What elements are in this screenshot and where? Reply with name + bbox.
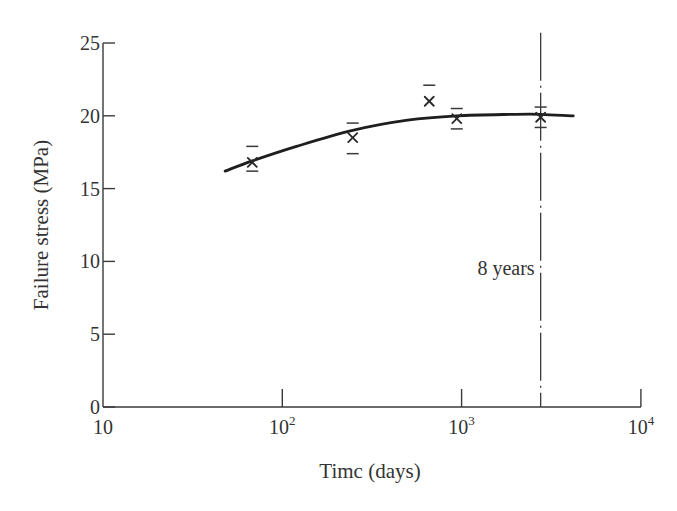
x-axis-title: Timc (days) — [319, 459, 420, 483]
y-ticks: 0510152025 — [80, 32, 115, 418]
data-point — [423, 85, 435, 106]
x-tick-label: 10 — [93, 416, 113, 438]
failure-stress-chart: 0510152025 10102103104 Failure stress (M… — [0, 0, 677, 511]
y-tick-label: 10 — [80, 250, 100, 272]
x-ticks: 10102103104 — [93, 389, 655, 438]
x-tick-label: 102 — [269, 413, 296, 438]
reference-lines: 8 years — [477, 33, 540, 407]
data-point — [451, 109, 463, 129]
y-tick-label: 25 — [80, 32, 100, 54]
y-axis-title: Failure stress (MPa) — [29, 140, 53, 310]
x-tick-label: 104 — [628, 413, 655, 438]
y-tick-label: 15 — [80, 178, 100, 200]
y-tick-label: 20 — [80, 105, 100, 127]
data-point — [347, 123, 359, 154]
fit-curve — [225, 114, 573, 171]
eight-years-label: 8 years — [477, 257, 534, 280]
data-points — [246, 85, 546, 171]
data-point — [246, 146, 258, 171]
y-tick-label: 0 — [90, 396, 100, 418]
axes — [103, 43, 641, 407]
y-tick-label: 5 — [90, 323, 100, 345]
x-tick-label: 103 — [448, 413, 475, 438]
